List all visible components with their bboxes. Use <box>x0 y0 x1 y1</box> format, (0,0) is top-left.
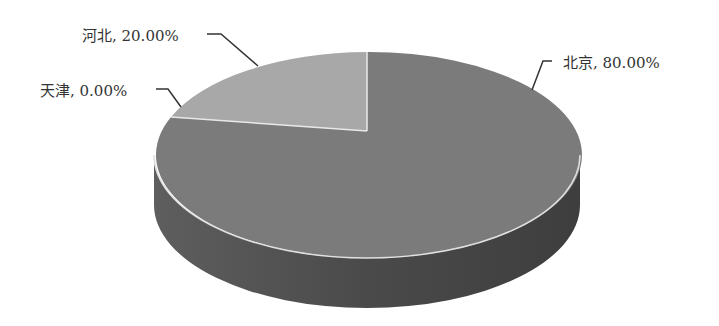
leader-line-hebei <box>207 34 258 66</box>
data-label-beijing: 北京, 80.00% <box>563 54 660 72</box>
pie-chart-graphic <box>0 0 719 326</box>
pie-chart-3d: 河北, 20.00% 天津, 0.00% 北京, 80.00% <box>0 0 719 326</box>
data-label-tianjin: 天津, 0.00% <box>40 82 127 100</box>
data-label-hebei: 河北, 20.00% <box>82 27 179 45</box>
leader-line-beijing <box>532 61 552 90</box>
leader-line-tianjin <box>156 89 181 107</box>
